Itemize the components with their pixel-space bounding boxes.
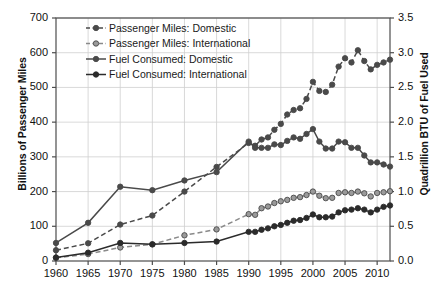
series-line xyxy=(56,50,390,250)
y-axis-left-tick-label: 300 xyxy=(14,150,48,162)
data-point xyxy=(182,189,187,194)
data-point xyxy=(387,164,392,169)
data-point xyxy=(252,145,257,150)
data-point xyxy=(336,210,341,215)
series-3 xyxy=(53,203,392,260)
data-point xyxy=(265,204,270,209)
x-axis-tick-label: 2010 xyxy=(357,267,397,279)
data-point xyxy=(265,226,270,231)
data-point xyxy=(349,145,354,150)
data-point xyxy=(150,187,155,192)
legend-marker xyxy=(93,72,98,77)
data-point xyxy=(355,206,360,211)
data-point xyxy=(342,190,347,195)
data-point xyxy=(355,48,360,53)
data-point xyxy=(259,227,264,232)
data-point xyxy=(85,250,90,255)
data-point xyxy=(336,190,341,195)
data-point xyxy=(265,145,270,150)
plot-area: Passenger Miles: DomesticPassenger Miles… xyxy=(0,0,440,284)
data-point xyxy=(310,189,315,194)
data-point xyxy=(304,215,309,220)
data-point xyxy=(214,169,219,174)
data-point xyxy=(272,142,277,147)
data-point xyxy=(291,195,296,200)
data-point xyxy=(310,212,315,217)
data-point xyxy=(368,210,373,215)
data-point xyxy=(349,60,354,65)
data-point xyxy=(387,203,392,208)
data-point xyxy=(297,136,302,141)
data-point xyxy=(150,213,155,218)
data-point xyxy=(272,127,277,132)
data-point xyxy=(85,220,90,225)
data-point xyxy=(285,220,290,225)
data-point xyxy=(53,255,58,260)
data-point xyxy=(362,191,367,196)
data-point xyxy=(150,242,155,247)
legend-label: Fuel Consumed: Domestic xyxy=(109,53,233,65)
data-point xyxy=(329,214,334,219)
legend-label: Passenger Miles: Domestic xyxy=(109,22,236,34)
data-point xyxy=(342,56,347,61)
data-point xyxy=(336,139,341,144)
data-point xyxy=(387,57,392,62)
data-point xyxy=(214,239,219,244)
data-point xyxy=(381,162,386,167)
data-point xyxy=(304,96,309,101)
data-point xyxy=(246,139,251,144)
legend-label: Passenger Miles: International xyxy=(109,37,250,49)
data-point xyxy=(323,89,328,94)
y-axis-right-tick-label: 0.0 xyxy=(398,254,432,266)
data-point xyxy=(323,215,328,220)
data-point xyxy=(329,195,334,200)
data-point xyxy=(246,211,251,216)
data-point xyxy=(374,207,379,212)
data-point xyxy=(285,197,290,202)
data-point xyxy=(291,218,296,223)
data-point xyxy=(259,145,264,150)
series-2 xyxy=(53,126,392,245)
data-point xyxy=(349,190,354,195)
data-point xyxy=(85,241,90,246)
data-point xyxy=(291,135,296,140)
data-point xyxy=(362,153,367,158)
data-point xyxy=(297,106,302,111)
y-axis-right-tick-label: 1.0 xyxy=(398,185,432,197)
data-point xyxy=(349,207,354,212)
y-axis-right-tick-label: 3.5 xyxy=(398,11,432,23)
data-point xyxy=(278,142,283,147)
data-point xyxy=(329,82,334,87)
y-axis-left-tick-label: 500 xyxy=(14,80,48,92)
data-point xyxy=(323,195,328,200)
legend-item-1: Passenger Miles: International xyxy=(86,37,250,49)
data-point xyxy=(118,240,123,245)
data-point xyxy=(381,204,386,209)
data-point xyxy=(304,131,309,136)
y-axis-right-tick-label: 2.5 xyxy=(398,80,432,92)
y-axis-right-tick-label: 0.5 xyxy=(398,219,432,231)
data-point xyxy=(362,207,367,212)
data-point xyxy=(317,193,322,198)
y-axis-right-tick-label: 2.0 xyxy=(398,115,432,127)
data-point xyxy=(278,222,283,227)
data-point xyxy=(355,145,360,150)
data-point xyxy=(310,126,315,131)
data-point xyxy=(291,107,296,112)
legend-marker xyxy=(93,56,98,61)
y-axis-right-tick-label: 3.0 xyxy=(398,46,432,58)
data-point xyxy=(214,164,219,169)
y-axis-left-tick-label: 600 xyxy=(14,46,48,58)
data-point xyxy=(297,217,302,222)
data-point xyxy=(336,64,341,69)
legend-marker xyxy=(93,25,98,30)
data-point xyxy=(317,88,322,93)
data-point xyxy=(252,212,257,217)
data-point xyxy=(259,137,264,142)
chart-container: Billions of Passenger Miles Quadrillion … xyxy=(0,0,440,284)
data-point xyxy=(278,121,283,126)
data-point xyxy=(374,190,379,195)
data-point xyxy=(214,227,219,232)
legend-item-2: Fuel Consumed: Domestic xyxy=(86,53,233,65)
data-point xyxy=(118,184,123,189)
